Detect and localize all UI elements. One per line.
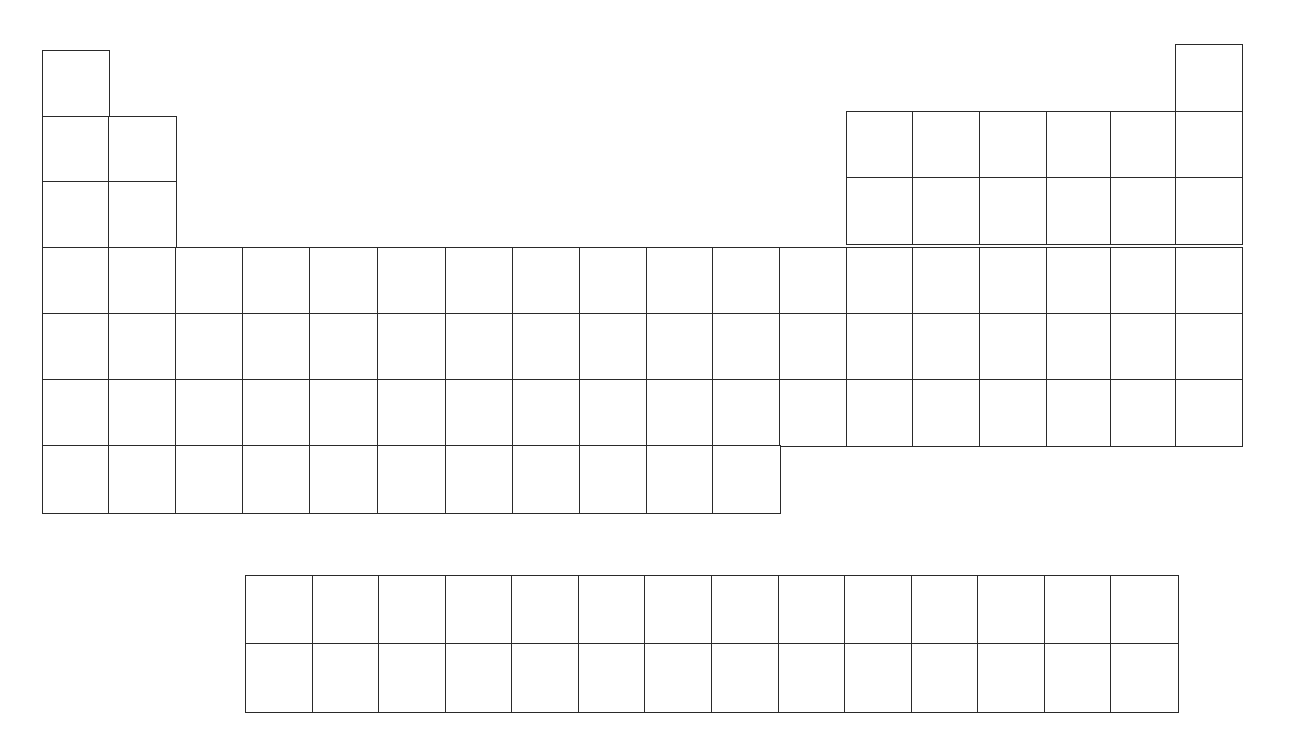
element-cell-p2-g2 bbox=[108, 116, 177, 183]
element-cell-p4-g3 bbox=[175, 247, 244, 315]
f-block-cell-r1-c4 bbox=[445, 575, 513, 645]
element-cell-p5-g15 bbox=[979, 313, 1048, 381]
element-cell-p6-g8 bbox=[512, 379, 581, 447]
element-cell-p5-g4 bbox=[242, 313, 311, 381]
element-cell-p2-g1 bbox=[42, 116, 110, 183]
f-block-cell-r1-c8 bbox=[711, 575, 779, 645]
element-cell-p4-g16 bbox=[1046, 247, 1112, 315]
element-cell-p3-g16 bbox=[1046, 177, 1112, 245]
element-cell-p7-g3 bbox=[175, 445, 244, 514]
element-cell-p4-g13 bbox=[846, 247, 914, 315]
element-cell-p6-g2 bbox=[108, 379, 177, 447]
element-cell-p5-g5 bbox=[309, 313, 379, 381]
element-cell-p4-g11 bbox=[712, 247, 781, 315]
element-cell-p6-g14 bbox=[912, 379, 981, 447]
element-cell-p2-g16 bbox=[1046, 111, 1112, 179]
element-cell-p4-g18 bbox=[1175, 247, 1243, 315]
element-cell-p5-g18 bbox=[1175, 313, 1243, 381]
element-cell-p5-g10 bbox=[646, 313, 714, 381]
element-cell-p6-g18 bbox=[1175, 379, 1243, 447]
element-cell-p6-g11 bbox=[712, 379, 781, 447]
element-cell-p7-g10 bbox=[646, 445, 714, 514]
element-cell-p3-g1 bbox=[42, 181, 110, 249]
f-block-cell-r1-c7 bbox=[644, 575, 712, 645]
element-cell-p5-g17 bbox=[1110, 313, 1177, 381]
f-block-cell-r1-c12 bbox=[977, 575, 1045, 645]
element-cell-p2-g15 bbox=[979, 111, 1048, 179]
f-block-cell-r1-c2 bbox=[312, 575, 380, 645]
element-cell-p7-g4 bbox=[242, 445, 311, 514]
element-cell-p7-g5 bbox=[309, 445, 379, 514]
f-block-cell-r1-c3 bbox=[378, 575, 446, 645]
element-cell-p4-g2 bbox=[108, 247, 177, 315]
element-cell-p4-g8 bbox=[512, 247, 581, 315]
element-cell-p6-g15 bbox=[979, 379, 1048, 447]
f-block-cell-r1-c11 bbox=[911, 575, 979, 645]
element-cell-p5-g14 bbox=[912, 313, 981, 381]
f-block-cell-r2-c7 bbox=[644, 643, 712, 713]
element-cell-p4-g6 bbox=[377, 247, 447, 315]
element-cell-p4-g5 bbox=[309, 247, 379, 315]
element-cell-p4-g7 bbox=[445, 247, 514, 315]
element-cell-p4-g4 bbox=[242, 247, 311, 315]
f-block-cell-r2-c14 bbox=[1110, 643, 1178, 713]
element-cell-p4-g17 bbox=[1110, 247, 1177, 315]
element-cell-p5-g6 bbox=[377, 313, 447, 381]
element-cell-p6-g10 bbox=[646, 379, 714, 447]
element-cell-p7-g1 bbox=[42, 445, 110, 514]
element-cell-p6-g1 bbox=[42, 379, 110, 447]
element-cell-p2-g13 bbox=[846, 111, 914, 179]
f-block-cell-r2-c10 bbox=[844, 643, 912, 713]
f-block-cell-r1-c9 bbox=[778, 575, 846, 645]
element-cell-p6-g9 bbox=[579, 379, 648, 447]
element-cell-p5-g1 bbox=[42, 313, 110, 381]
element-cell-p1-g18 bbox=[1175, 44, 1243, 113]
element-cell-p2-g18 bbox=[1175, 111, 1243, 179]
element-cell-p6-g7 bbox=[445, 379, 514, 447]
element-cell-p7-g6 bbox=[377, 445, 447, 514]
element-cell-p6-g6 bbox=[377, 379, 447, 447]
element-cell-p4-g9 bbox=[579, 247, 648, 315]
element-cell-p6-g4 bbox=[242, 379, 311, 447]
f-block-cell-r2-c13 bbox=[1044, 643, 1112, 713]
element-cell-p4-g10 bbox=[646, 247, 714, 315]
f-block-cell-r2-c8 bbox=[711, 643, 779, 713]
f-block-cell-r2-c3 bbox=[378, 643, 446, 713]
element-cell-p4-g1 bbox=[42, 247, 110, 315]
f-block-cell-r1-c10 bbox=[844, 575, 912, 645]
f-block-cell-r1-c5 bbox=[511, 575, 579, 645]
element-cell-p6-g13 bbox=[846, 379, 914, 447]
element-cell-p5-g13 bbox=[846, 313, 914, 381]
element-cell-p7-g11 bbox=[712, 445, 781, 514]
element-cell-p6-g5 bbox=[309, 379, 379, 447]
f-block-cell-r1-c6 bbox=[578, 575, 646, 645]
element-cell-p3-g17 bbox=[1110, 177, 1177, 245]
element-cell-p1-g1 bbox=[42, 50, 110, 118]
element-cell-p7-g7 bbox=[445, 445, 514, 514]
element-cell-p5-g9 bbox=[579, 313, 648, 381]
element-cell-p6-g17 bbox=[1110, 379, 1177, 447]
element-cell-p3-g15 bbox=[979, 177, 1048, 245]
f-block-cell-r2-c12 bbox=[977, 643, 1045, 713]
f-block-cell-r1-c1 bbox=[245, 575, 313, 645]
element-cell-p6-g16 bbox=[1046, 379, 1112, 447]
element-cell-p7-g9 bbox=[579, 445, 648, 514]
element-cell-p6-g12 bbox=[779, 379, 848, 447]
f-block-cell-r2-c2 bbox=[312, 643, 380, 713]
f-block-cell-r2-c6 bbox=[578, 643, 646, 713]
f-block-cell-r2-c1 bbox=[245, 643, 313, 713]
f-block-cell-r2-c5 bbox=[511, 643, 579, 713]
element-cell-p4-g14 bbox=[912, 247, 981, 315]
element-cell-p5-g16 bbox=[1046, 313, 1112, 381]
f-block-cell-r1-c13 bbox=[1044, 575, 1112, 645]
element-cell-p5-g12 bbox=[779, 313, 848, 381]
f-block-cell-r2-c4 bbox=[445, 643, 513, 713]
element-cell-p4-g12 bbox=[779, 247, 848, 315]
element-cell-p5-g11 bbox=[712, 313, 781, 381]
element-cell-p4-g15 bbox=[979, 247, 1048, 315]
element-cell-p2-g14 bbox=[912, 111, 981, 179]
element-cell-p3-g14 bbox=[912, 177, 981, 245]
element-cell-p5-g7 bbox=[445, 313, 514, 381]
element-cell-p2-g17 bbox=[1110, 111, 1177, 179]
element-cell-p7-g8 bbox=[512, 445, 581, 514]
